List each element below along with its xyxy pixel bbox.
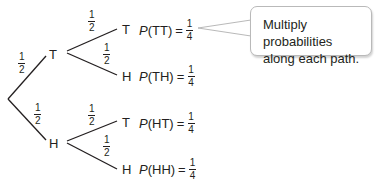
prob-tt: P (TT) = 1 4 <box>139 19 193 42</box>
callout-pointer <box>198 20 251 36</box>
callout-line-1: Multiply probabilities <box>263 16 371 50</box>
t-to-t-probability: 1 2 <box>88 10 96 33</box>
prob-ht: P (HT) = 1 4 <box>139 112 195 135</box>
prob-th: P (TH) = 1 4 <box>139 65 195 88</box>
leaf-ht: T <box>122 116 130 129</box>
node-t: T <box>49 48 57 61</box>
prob-hh: P (HH) = 1 4 <box>139 158 196 181</box>
prob-th-value: 1 4 <box>187 65 195 88</box>
branch-root-to-t <box>8 56 46 99</box>
callout-line-2: along each path. <box>263 50 371 67</box>
t-to-h-probability: 1 2 <box>103 43 111 66</box>
callout-box: Multiply probabilities along each path. <box>250 6 372 56</box>
node-h: H <box>49 137 58 150</box>
prob-tt-value: 1 4 <box>186 19 194 42</box>
leaf-hh: H <box>122 163 131 176</box>
h-to-h-probability: 1 2 <box>103 135 111 158</box>
root-h-probability: 1 2 <box>34 103 42 126</box>
root-t-probability: 1 2 <box>18 52 26 75</box>
leaf-th: H <box>122 70 131 83</box>
h-to-t-probability: 1 2 <box>88 104 96 127</box>
prob-hh-value: 1 4 <box>189 158 197 181</box>
leaf-tt: T <box>122 23 130 36</box>
prob-ht-value: 1 4 <box>187 112 195 135</box>
